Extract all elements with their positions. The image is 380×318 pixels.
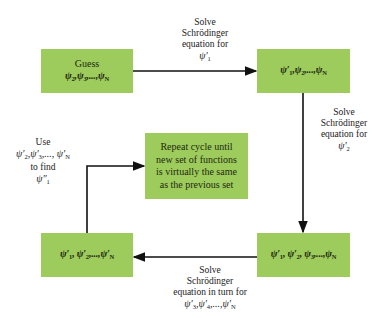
label-bottom-line-2: Schrödinger bbox=[150, 276, 270, 287]
box-top-right-functions: ψ′1,ψ2,...,ψN bbox=[280, 64, 326, 79]
center-line-4: as the previous set bbox=[160, 179, 234, 192]
box-guess-title: Guess bbox=[75, 58, 99, 70]
label-top-step: Solve Schrödinger equation for ψ′1 bbox=[160, 17, 250, 64]
box-bottom-left: ψ′1, ψ′2,...,ψ′N bbox=[41, 233, 133, 277]
label-left-line-1: Use bbox=[10, 137, 76, 148]
center-line-2: new set of functions bbox=[156, 154, 237, 167]
box-bottom-left-functions: ψ′1, ψ′2,...,ψ′N bbox=[60, 248, 114, 263]
box-top-right: ψ′1,ψ2,...,ψN bbox=[257, 49, 350, 93]
label-right-line-2: Schrödinger bbox=[310, 118, 378, 129]
label-bottom-line-1: Solve bbox=[150, 265, 270, 276]
box-guess: Guess ψ2,ψ3,...,ψN bbox=[41, 49, 133, 93]
label-top-line-2: Schrödinger bbox=[160, 28, 250, 39]
label-top-line-3: equation for bbox=[160, 39, 250, 50]
label-left-line-3: to find bbox=[10, 162, 76, 173]
label-top-line-1: Solve bbox=[160, 17, 250, 28]
label-right-step: Solve Schrödinger equation for ψ′2 bbox=[310, 107, 378, 154]
label-top-psi: ψ′1 bbox=[160, 50, 250, 64]
label-bottom-line-3: equation in turn for bbox=[150, 287, 270, 298]
box-bottom-right: ψ′1, ψ′2, ψ3,...,ψN bbox=[257, 233, 350, 277]
label-right-psi: ψ′2 bbox=[310, 140, 378, 154]
arrow-bottom-left-to-center bbox=[87, 166, 144, 233]
box-guess-functions: ψ2,ψ3,...,ψN bbox=[65, 70, 109, 85]
label-right-line-3: equation for bbox=[310, 129, 378, 140]
label-left-psi-result: ψ″1 bbox=[10, 173, 76, 187]
label-right-line-1: Solve bbox=[310, 107, 378, 118]
label-left-step: Use ψ′2,ψ′3,..., ψ′N to find ψ″1 bbox=[10, 137, 76, 187]
center-line-1: Repeat cycle until bbox=[160, 141, 232, 154]
box-center-repeat: Repeat cycle until new set of functions … bbox=[145, 133, 248, 199]
center-line-3: is virtually the same bbox=[156, 166, 237, 179]
label-left-psi-set: ψ′2,ψ′3,..., ψ′N bbox=[10, 148, 76, 162]
label-bottom-step: Solve Schrödinger equation in turn for ψ… bbox=[150, 265, 270, 312]
label-bottom-psi: ψ′3,ψ′4,...,ψ′N bbox=[150, 298, 270, 312]
box-bottom-right-functions: ψ′1, ψ′2, ψ3,...,ψN bbox=[271, 248, 337, 263]
